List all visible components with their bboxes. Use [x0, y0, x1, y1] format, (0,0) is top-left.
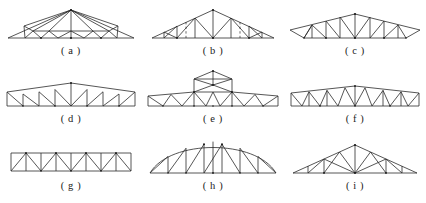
truss-c-members [290, 14, 420, 38]
truss-diagram-e [142, 68, 284, 118]
truss-caption-a: ( a ) [0, 45, 142, 57]
truss-diagram-g [0, 135, 142, 185]
truss-cell-e: ( e ) [142, 68, 284, 136]
truss-cell-i: ( i ) [284, 135, 426, 203]
truss-cell-h: ( h ) [142, 135, 284, 203]
truss-diagram-a [0, 0, 142, 50]
truss-h-members [150, 142, 276, 173]
truss-cell-g: ( g ) [0, 135, 142, 203]
truss-i-members [293, 145, 417, 173]
truss-cell-c: ( c ) [284, 0, 426, 68]
truss-diagram-d [0, 68, 142, 118]
truss-diagram-h [142, 135, 284, 185]
truss-caption-d: ( d ) [0, 113, 142, 125]
truss-e-members [148, 92, 278, 106]
truss-caption-c: ( c ) [284, 45, 426, 57]
truss-caption-f: ( f ) [284, 113, 426, 125]
truss-diagram-f [284, 68, 426, 118]
truss-caption-i: ( i ) [284, 180, 426, 192]
truss-caption-e: ( e ) [142, 113, 284, 125]
truss-figure-sheet: ( a ) [0, 0, 426, 203]
truss-diagram-b [142, 0, 284, 50]
truss-f-members [291, 86, 419, 106]
truss-g-members [11, 153, 131, 171]
truss-cell-a: ( a ) [0, 0, 142, 68]
truss-d-members [7, 83, 135, 106]
truss-caption-g: ( g ) [0, 180, 142, 192]
truss-diagram-i [284, 135, 426, 185]
truss-e-monitor [194, 71, 232, 92]
truss-cell-b: ( b ) [142, 0, 284, 68]
truss-a-members [8, 10, 134, 38]
truss-cell-f: ( f ) [284, 68, 426, 136]
truss-b-members [152, 10, 274, 38]
truss-cell-d: ( d ) [0, 68, 142, 136]
truss-caption-b: ( b ) [142, 45, 284, 57]
truss-caption-h: ( h ) [142, 180, 284, 192]
truss-diagram-c [284, 0, 426, 50]
